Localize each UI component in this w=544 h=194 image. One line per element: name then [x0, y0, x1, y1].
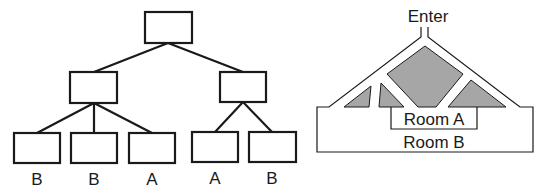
edge-midleft-leaf3	[94, 103, 152, 133]
block-left-small	[344, 86, 371, 107]
edge-midleft-leaf1	[37, 103, 94, 133]
leaf-label-4: A	[209, 169, 221, 188]
edge-root-midleft	[94, 43, 168, 72]
tree-node-mid-right	[220, 72, 266, 102]
enter-label: Enter	[408, 7, 449, 26]
room-b-label: Room B	[403, 133, 464, 152]
tree-leaf-5	[249, 132, 296, 162]
tree-leaf-3	[129, 133, 175, 163]
tree-leaf-2	[71, 133, 117, 163]
edge-root-midright	[168, 43, 243, 72]
tree-node-mid-left	[70, 72, 117, 103]
tree-diagram: B B A A B	[14, 12, 296, 189]
block-right-triangle	[448, 80, 506, 107]
edge-midright-leaf5	[243, 102, 272, 132]
leaf-label-1: B	[31, 170, 42, 189]
leaf-label-2: B	[88, 170, 99, 189]
maze-diagram: Enter Room A Room B	[317, 7, 533, 152]
tree-leaf-4	[192, 132, 238, 162]
tree-node-root	[145, 12, 192, 43]
tree-leaf-1	[14, 133, 60, 163]
edge-midright-leaf4	[215, 102, 243, 132]
leaf-label-3: A	[146, 170, 158, 189]
room-a-label: Room A	[404, 110, 465, 129]
diagram-canvas: B B A A B Enter Room A Room B	[0, 0, 544, 194]
leaf-label-5: B	[266, 169, 277, 188]
